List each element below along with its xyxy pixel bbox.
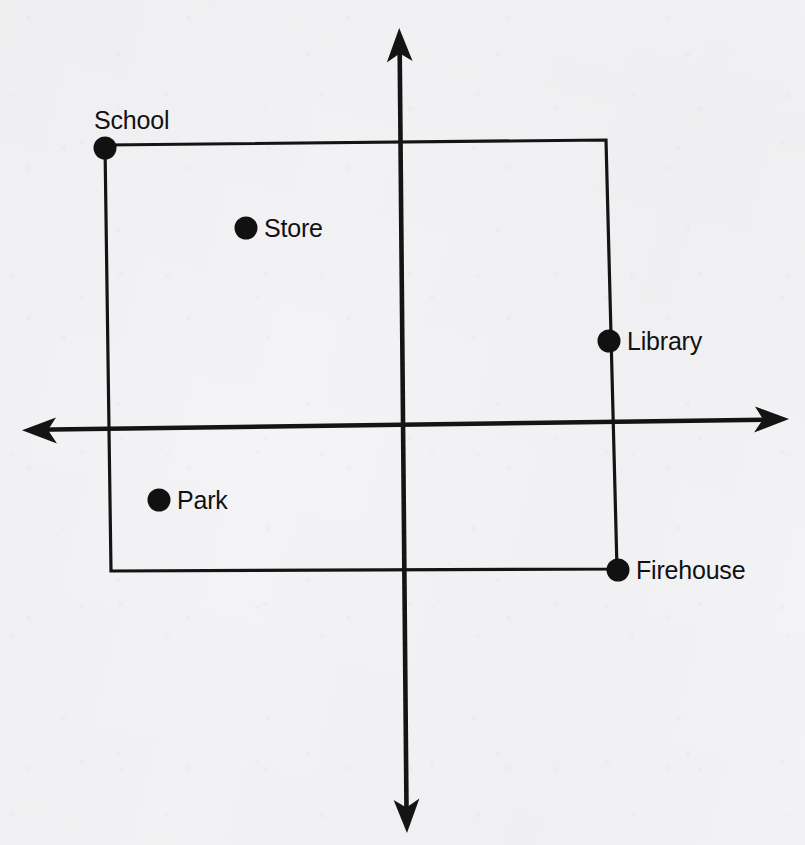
vertical-axis-line (400, 40, 407, 821)
school-label: School (94, 106, 169, 134)
school-point-dot[interactable] (94, 137, 117, 160)
landmark-school[interactable]: School (94, 106, 170, 160)
park-label: Park (177, 486, 228, 514)
landmark-firehouse[interactable]: Firehouse (607, 556, 746, 584)
library-label: Library (627, 327, 703, 355)
firehouse-point-dot[interactable] (607, 559, 630, 582)
landmark-park[interactable]: Park (148, 486, 229, 514)
firehouse-label: Firehouse (636, 556, 745, 584)
park-point-dot[interactable] (148, 489, 171, 512)
store-label: Store (264, 214, 323, 242)
library-point-dot[interactable] (598, 330, 621, 353)
coordinate-plane-figure: School Store Library Park Firehouse (0, 0, 805, 845)
landmark-library[interactable]: Library (598, 327, 703, 355)
landmark-store[interactable]: Store (235, 214, 323, 242)
figure-canvas: School Store Library Park Firehouse (0, 0, 805, 845)
landmark-points-group: School Store Library Park Firehouse (94, 106, 746, 584)
horizontal-axis-line (34, 420, 777, 430)
axes-group (22, 28, 789, 833)
store-point-dot[interactable] (235, 217, 258, 240)
